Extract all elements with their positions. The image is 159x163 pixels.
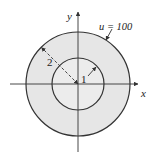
- inner-radius-label: 1: [81, 73, 87, 85]
- boundary-condition-label: u = 100: [99, 21, 133, 32]
- outer-radius-label: 2: [47, 56, 53, 68]
- y-axis-label: y: [66, 10, 72, 22]
- x-axis-label: x: [140, 87, 146, 99]
- annulus-diagram: y x 2 1 u = 100: [0, 0, 159, 163]
